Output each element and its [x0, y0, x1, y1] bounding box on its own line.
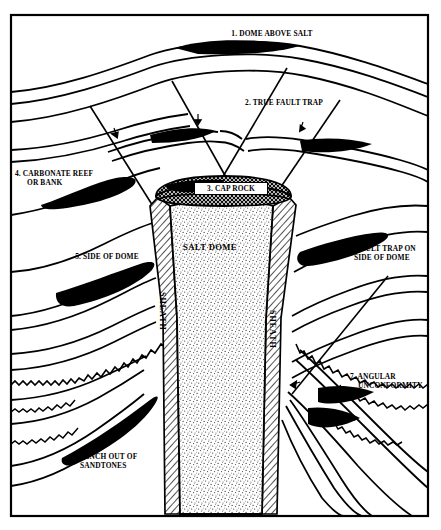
callout-8-pinch-out-of-sandstones: 8. PINCH OUT OF SANDTONES: [74, 452, 178, 470]
sheath-label-right: SHEATH: [268, 310, 277, 349]
callout-5-side-of-dome: 5. SIDE OF DOME: [52, 252, 162, 261]
callout-4-carbonate-reef: 4. CARBONATE REEF OR BANK: [15, 169, 135, 187]
callout-2-true-fault-trap: 2. TRUE FAULT TRAP: [224, 98, 344, 107]
callout-7-angular-unconformity: 7. ANGULAR UNCONFORMITY: [350, 372, 440, 390]
salt-dome-label: SALT DOME: [183, 242, 237, 252]
sheath-label-left: SHEATH: [158, 292, 167, 331]
diagram-canvas: [0, 0, 441, 530]
callout-1-dome-above-salt: 1. DOME ABOVE SALT: [208, 29, 336, 38]
salt-dome-diagram: 1. DOME ABOVE SALT 2. TRUE FAULT TRAP 3.…: [0, 0, 441, 530]
callout-6-fault-trap-side-of-dome: 6. FAULT TRAP ON SIDE OF DOME: [348, 244, 440, 262]
callout-3-cap-rock: 3. CAP ROCK: [194, 182, 268, 195]
